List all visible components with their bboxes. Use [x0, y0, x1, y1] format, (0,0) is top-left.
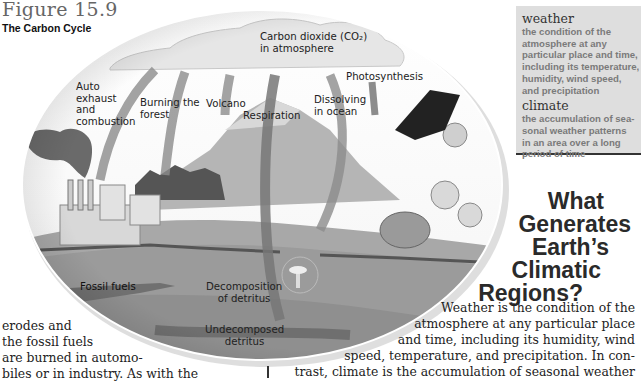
- figure-title: The Carbon Cycle: [2, 22, 91, 34]
- body-line: trast, climate is the accumulation of se…: [294, 364, 635, 379]
- label-volcano: Volcano: [206, 98, 246, 110]
- glossary-term-climate: climate: [522, 99, 641, 113]
- figure-number: Figure 15.9: [2, 0, 118, 20]
- label-co2-atmosphere: Carbon dioxide (CO₂) in atmosphere: [260, 31, 367, 54]
- label-respiration: Respiration: [243, 110, 300, 122]
- margin-rule: [267, 366, 269, 378]
- body-line: speed, temperature, and precipitation. I…: [344, 348, 635, 363]
- body-line: Weather is the condition of the: [441, 300, 635, 315]
- label-burning-forest: Burning the forest: [140, 97, 200, 120]
- glossary-definition-weather: the condition of the atmosphere at any p…: [522, 26, 641, 96]
- section-heading: What Generates Earth’s Climatic Regions?: [478, 190, 631, 305]
- body-line: are burned in automo-: [2, 350, 143, 365]
- body-line: the fossil fuels: [2, 334, 93, 349]
- body-line: biles or in industry. As with the: [2, 366, 198, 381]
- label-photosynthesis: Photosynthesis: [346, 71, 423, 83]
- glossary-sidebar: weather the condition of the atmosphere …: [516, 6, 641, 155]
- body-line: atmosphere at any particular place: [414, 316, 635, 331]
- label-auto-exhaust: Auto exhaust and combustion: [76, 81, 136, 127]
- label-fossil-fuels: Fossil fuels: [80, 281, 136, 293]
- body-line: erodes and: [2, 318, 72, 333]
- glossary-term-weather: weather: [522, 12, 641, 26]
- label-dissolving-ocean: Dissolving in ocean: [314, 94, 366, 117]
- label-undecomposed: Undecomposed detritus: [205, 324, 284, 347]
- glossary-definition-climate: the accumulation of sea- sonal weather p…: [522, 113, 641, 160]
- body-line: and time, including its humidity, wind: [398, 332, 635, 347]
- label-decomposition: Decomposition of detritus: [206, 281, 282, 304]
